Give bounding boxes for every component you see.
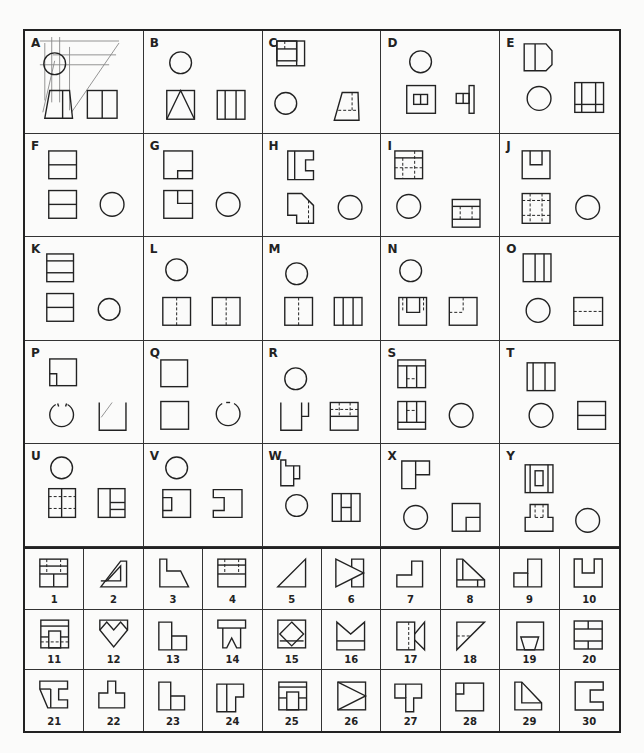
answer-choice-7[interactable]: 7	[381, 549, 440, 610]
problem-cell-l[interactable]: L	[144, 237, 263, 340]
answer-choice-24[interactable]: 24	[203, 670, 262, 731]
answer-number: 26	[322, 716, 380, 727]
answer-choice-13[interactable]: 13	[144, 610, 203, 671]
orthographic-worksheet: A B	[23, 29, 621, 733]
answer-number: 14	[203, 654, 261, 665]
problem-cell-t[interactable]: T	[500, 341, 619, 444]
pictorial-shape	[84, 610, 142, 656]
answer-choice-15[interactable]: 15	[263, 610, 322, 671]
pictorial-shape	[25, 549, 83, 595]
answer-choice-4[interactable]: 4	[203, 549, 262, 610]
orthographic-views-drawing	[263, 134, 381, 236]
problem-cell-e[interactable]: E	[500, 31, 619, 134]
problem-cell-g[interactable]: G	[144, 134, 263, 237]
answer-number: 19	[500, 654, 558, 665]
pictorial-shape	[381, 549, 439, 595]
orthographic-views-drawing	[144, 444, 262, 546]
answer-choice-25[interactable]: 25	[263, 670, 322, 731]
pictorial-shape	[441, 670, 499, 716]
problem-cell-o[interactable]: O	[500, 237, 619, 340]
answer-choice-9[interactable]: 9	[500, 549, 559, 610]
answer-choice-16[interactable]: 16	[322, 610, 381, 671]
answer-number: 10	[560, 594, 619, 605]
problem-cell-c[interactable]: C	[263, 31, 382, 134]
answer-number: 4	[203, 594, 261, 605]
problem-cell-r[interactable]: R	[263, 341, 382, 444]
orthographic-views-drawing	[500, 134, 619, 236]
answer-choice-8[interactable]: 8	[441, 549, 500, 610]
answer-choice-21[interactable]: 21	[25, 670, 84, 731]
problem-cell-p[interactable]: P	[25, 341, 144, 444]
problem-cell-b[interactable]: B	[144, 31, 263, 134]
answer-number: 29	[500, 716, 558, 727]
orthographic-views-drawing	[381, 341, 499, 443]
answer-choice-6[interactable]: 6	[322, 549, 381, 610]
answer-choice-10[interactable]: 10	[560, 549, 619, 610]
pictorial-shape	[381, 670, 439, 716]
answer-number: 21	[25, 716, 83, 727]
pictorial-shape	[500, 670, 558, 716]
problem-cell-x[interactable]: X	[381, 444, 500, 547]
answer-choice-3[interactable]: 3	[144, 549, 203, 610]
answer-number: 2	[84, 594, 142, 605]
pictorial-shape	[322, 549, 380, 595]
answer-choice-30[interactable]: 30	[560, 670, 619, 731]
orthographic-views-drawing	[144, 237, 262, 339]
orthographic-views-drawing	[500, 444, 619, 546]
answer-choice-17[interactable]: 17	[381, 610, 440, 671]
orthographic-views-drawing	[500, 31, 619, 133]
answer-choice-1[interactable]: 1	[25, 549, 84, 610]
answer-number: 13	[144, 654, 202, 665]
answer-choice-19[interactable]: 19	[500, 610, 559, 671]
answer-number: 7	[381, 594, 439, 605]
problem-cell-n[interactable]: N	[381, 237, 500, 340]
answer-choice-11[interactable]: 11	[25, 610, 84, 671]
problem-cell-j[interactable]: J	[500, 134, 619, 237]
answer-choice-26[interactable]: 26	[322, 670, 381, 731]
orthographic-views-drawing	[144, 341, 262, 443]
problem-cell-v[interactable]: V	[144, 444, 263, 547]
pictorial-shape	[263, 610, 321, 656]
answer-choice-2[interactable]: 2	[84, 549, 143, 610]
problem-cell-s[interactable]: S	[381, 341, 500, 444]
answer-choice-12[interactable]: 12	[84, 610, 143, 671]
problem-cell-y[interactable]: Y	[500, 444, 619, 547]
orthographic-views-drawing	[500, 341, 619, 443]
pictorial-shape	[441, 549, 499, 595]
answer-number: 1	[25, 594, 83, 605]
answer-choice-28[interactable]: 28	[441, 670, 500, 731]
answer-choice-20[interactable]: 20	[560, 610, 619, 671]
pictorial-shape	[84, 549, 142, 595]
answer-number: 12	[84, 654, 142, 665]
answer-number: 18	[441, 654, 499, 665]
problem-cell-u[interactable]: U	[25, 444, 144, 547]
problem-cell-h[interactable]: H	[263, 134, 382, 237]
problem-cell-d[interactable]: D	[381, 31, 500, 134]
problem-cell-f[interactable]: F	[25, 134, 144, 237]
answer-choice-27[interactable]: 27	[381, 670, 440, 731]
problem-cell-i[interactable]: I	[381, 134, 500, 237]
problem-cell-m[interactable]: M	[263, 237, 382, 340]
problem-cell-w[interactable]: W	[263, 444, 382, 547]
answer-choices-grid: 1 2 3 4 5 6 7 8 9 10 11 12 13 14 15 16 1…	[25, 547, 619, 731]
pictorial-shape	[263, 670, 321, 716]
orthographic-views-drawing	[263, 237, 381, 339]
answer-choice-22[interactable]: 22	[84, 670, 143, 731]
problem-cell-k[interactable]: K	[25, 237, 144, 340]
answer-choice-29[interactable]: 29	[500, 670, 559, 731]
answer-choice-23[interactable]: 23	[144, 670, 203, 731]
answer-number: 9	[500, 594, 558, 605]
answer-choice-14[interactable]: 14	[203, 610, 262, 671]
orthographic-views-drawing	[25, 444, 143, 546]
problem-grid: A B	[25, 31, 619, 547]
pictorial-shape	[144, 610, 202, 656]
orthographic-views-drawing	[144, 134, 262, 236]
orthographic-views-drawing	[25, 134, 143, 236]
pictorial-shape	[560, 610, 619, 656]
answer-choice-18[interactable]: 18	[441, 610, 500, 671]
problem-cell-q[interactable]: Q	[144, 341, 263, 444]
problem-cell-a[interactable]: A	[25, 31, 144, 134]
answer-number: 23	[144, 716, 202, 727]
pictorial-shape	[84, 670, 142, 716]
answer-choice-5[interactable]: 5	[263, 549, 322, 610]
